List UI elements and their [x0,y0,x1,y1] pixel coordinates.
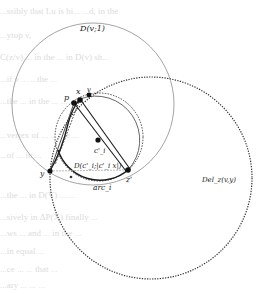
segment-x-y [55,99,80,165]
point-y [47,168,52,173]
label-del: Del_z(v,y) [201,176,236,184]
disk-v-circle [12,23,174,185]
label-disk-v: D(v;1) [79,24,105,33]
label-x: x [76,87,81,96]
label-arc: arc_i [93,183,112,192]
label-z: z' [125,175,132,184]
segment-x-z [80,99,130,169]
label-p: p [64,93,69,102]
point-c [95,137,100,142]
label-c: c'_i [94,147,106,155]
point-arc-intersect [70,176,73,179]
geometry-diagram: D(v;1) Del_z(v,y) D(c'_i;|c'_i x|) arc_i… [0,0,264,294]
point-z [125,167,131,173]
arc-upper-right [80,96,140,170]
chord-y-z [50,170,128,171]
point-x [77,97,83,103]
label-v: v [87,86,91,94]
segment-p-z [74,103,126,171]
label-y: y [39,169,45,178]
point-p [71,100,77,106]
arc-upper-left [50,99,80,171]
label-small-disk: D(c'_i;|c'_i x|) [73,162,122,170]
